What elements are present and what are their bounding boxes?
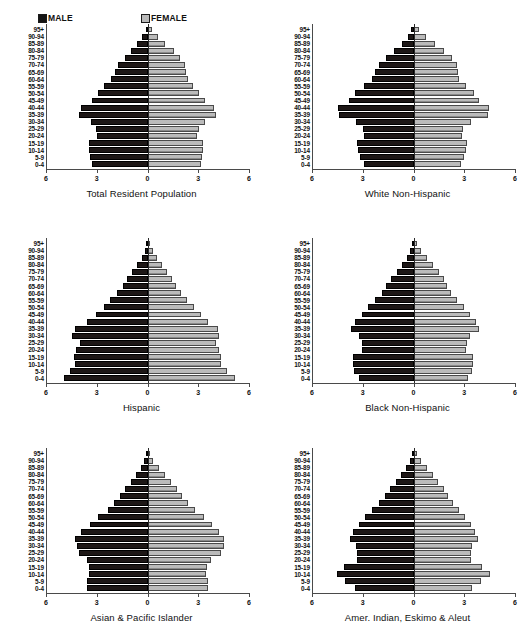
male-half: [46, 450, 148, 457]
age-axis: 95+90-9485-8980-8475-7970-7465-6960-6455…: [274, 240, 310, 382]
female-bar: [414, 361, 473, 367]
female-half: [148, 240, 250, 247]
female-half: [414, 261, 516, 268]
female-bar: [148, 564, 207, 570]
male-half: [46, 332, 148, 339]
male-bar: [131, 479, 148, 485]
female-bar: [148, 255, 157, 261]
female-half: [414, 325, 516, 332]
female-bar: [414, 550, 472, 556]
age-label: 50-54: [274, 90, 310, 97]
plot-area: 95+90-9485-8980-8475-7970-7465-6960-6455…: [266, 8, 531, 183]
female-half: [414, 111, 516, 118]
female-half: [414, 361, 516, 368]
female-half: [148, 464, 250, 471]
plot-area: 95+90-9485-8980-8475-7970-7465-6960-6455…: [266, 432, 531, 607]
male-bar: [357, 550, 414, 556]
male-bar: [77, 543, 147, 549]
male-bar: [360, 154, 413, 160]
female-bar: [414, 34, 427, 40]
male-half: [312, 275, 414, 282]
female-bar: [414, 340, 467, 346]
male-bar: [97, 133, 148, 139]
age-label: 60-64: [274, 76, 310, 83]
female-half: [414, 240, 516, 247]
age-label: 10-14: [8, 571, 44, 578]
male-half: [312, 90, 414, 97]
male-half: [312, 542, 414, 549]
female-bar: [148, 500, 189, 506]
female-half: [148, 368, 250, 375]
male-half: [312, 339, 414, 346]
male-bar: [402, 41, 414, 47]
age-label: 85-89: [274, 254, 310, 261]
female-half: [414, 61, 516, 68]
male-half: [312, 346, 414, 353]
x-axis-tick: [148, 383, 149, 387]
female-half: [148, 275, 250, 282]
x-tick-label: 0: [146, 175, 150, 182]
female-bar: [414, 126, 464, 132]
age-label: 5-9: [274, 578, 310, 585]
female-half: [414, 578, 516, 585]
male-half: [312, 69, 414, 76]
male-bar: [364, 161, 413, 167]
female-bar: [148, 55, 180, 61]
panel-title: Hispanic: [0, 402, 265, 413]
male-half: [312, 500, 414, 507]
female-bar: [148, 319, 209, 325]
age-label: 35-39: [274, 111, 310, 118]
male-bar: [372, 507, 413, 513]
male-half: [312, 549, 414, 556]
x-tick-label: 3: [361, 389, 365, 396]
male-bar: [89, 571, 147, 577]
x-axis-tick: [97, 383, 98, 387]
x-axis-tick: [515, 383, 516, 387]
age-label: 0-4: [274, 161, 310, 168]
female-bar: [148, 529, 220, 535]
age-label: 25-29: [8, 549, 44, 556]
female-half: [414, 346, 516, 353]
male-half: [46, 485, 148, 492]
male-half: [46, 161, 148, 168]
x-tick-label: 0: [412, 389, 416, 396]
female-half: [414, 132, 516, 139]
female-half: [148, 125, 250, 132]
female-bar: [148, 326, 218, 332]
male-half: [312, 125, 414, 132]
female-half: [148, 564, 250, 571]
x-axis-tick: [312, 383, 313, 387]
age-label: 60-64: [8, 290, 44, 297]
female-bar: [414, 161, 461, 167]
male-bar: [364, 83, 414, 89]
zero-axis-line: [414, 448, 415, 594]
male-bar: [91, 119, 148, 125]
female-bar: [148, 536, 224, 542]
female-bar: [414, 354, 473, 360]
x-tick-label: 3: [462, 389, 466, 396]
age-label: 55-59: [8, 297, 44, 304]
male-bar: [87, 557, 148, 563]
male-half: [312, 132, 414, 139]
male-half: [46, 507, 148, 514]
male-half: [312, 318, 414, 325]
female-bar: [414, 105, 489, 111]
age-label: 0-4: [8, 375, 44, 382]
female-bar: [148, 354, 222, 360]
x-tick-label: 6: [247, 389, 251, 396]
female-half: [148, 90, 250, 97]
female-half: [414, 368, 516, 375]
male-half: [46, 578, 148, 585]
male-half: [46, 318, 148, 325]
female-bar: [414, 557, 472, 563]
age-label: 65-69: [8, 69, 44, 76]
female-bar: [148, 105, 215, 111]
female-half: [148, 268, 250, 275]
female-bar: [148, 133, 198, 139]
male-half: [312, 104, 414, 111]
male-bar: [372, 76, 413, 82]
x-tick-label: 0: [146, 599, 150, 606]
male-bar: [92, 161, 148, 167]
female-bar: [148, 140, 204, 146]
panel-title: Black Non-Hispanic: [266, 402, 531, 413]
